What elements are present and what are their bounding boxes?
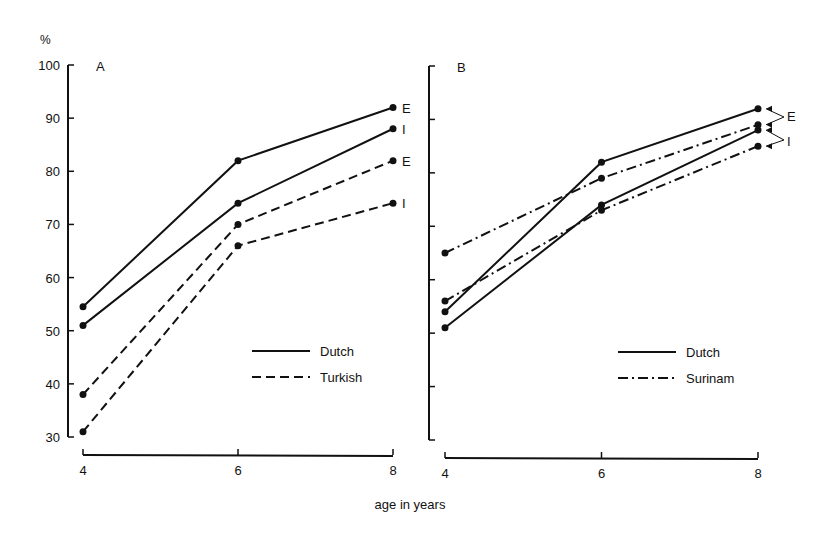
data-point xyxy=(390,125,397,132)
data-point xyxy=(442,250,449,257)
y-tick-label: 70 xyxy=(46,217,60,232)
data-point xyxy=(598,207,605,214)
annotation-i: I xyxy=(787,134,791,149)
y-tick-label: 90 xyxy=(46,111,60,126)
x-axis xyxy=(445,458,758,459)
y-tick-label: 40 xyxy=(46,377,60,392)
panel-title: B xyxy=(457,60,466,75)
chart-element xyxy=(766,143,772,149)
annotation-e: E xyxy=(402,154,411,169)
x-tick-label: 6 xyxy=(234,463,241,478)
data-point xyxy=(80,428,87,435)
data-point xyxy=(390,104,397,111)
data-point xyxy=(442,324,449,331)
x-tick-label: 6 xyxy=(598,466,605,481)
figure: 30405060708090100468ADutchTurkish%EIEI 4… xyxy=(0,0,834,543)
annotation-e: E xyxy=(787,109,796,124)
series-line-turkish-i xyxy=(83,203,393,432)
series-line-surinam-e xyxy=(445,125,758,253)
series-line-turkish-e xyxy=(83,161,393,395)
x-tick-label: 8 xyxy=(389,463,396,478)
legend-label: Turkish xyxy=(320,370,362,385)
data-point xyxy=(235,242,242,249)
data-point xyxy=(755,105,762,112)
annotation-i: I xyxy=(402,196,406,211)
data-point xyxy=(235,157,242,164)
legend-label: Dutch xyxy=(686,345,720,360)
data-point xyxy=(235,200,242,207)
panel-a: 30405060708090100468ADutchTurkish%EIEI xyxy=(38,33,411,478)
y-tick-label: 30 xyxy=(46,430,60,445)
chart-element xyxy=(766,106,772,112)
panel-title: A xyxy=(96,59,105,74)
data-point xyxy=(598,175,605,182)
data-point xyxy=(390,200,397,207)
panel-b: 468BDutchSurinamEI xyxy=(429,60,796,481)
x-axis xyxy=(83,455,393,456)
data-point xyxy=(390,157,397,164)
series-line-surinam-i xyxy=(445,146,758,301)
chart-element xyxy=(766,130,784,140)
y-unit-label: % xyxy=(40,33,51,47)
data-point xyxy=(80,391,87,398)
data-point xyxy=(755,121,762,128)
data-point xyxy=(442,298,449,305)
y-tick-label: 50 xyxy=(46,324,60,339)
x-tick-label: 4 xyxy=(79,463,86,478)
legend-label: Dutch xyxy=(320,344,354,359)
data-point xyxy=(235,221,242,228)
data-point xyxy=(598,159,605,166)
data-point xyxy=(80,303,87,310)
legend-label: Surinam xyxy=(686,371,734,386)
series-line-dutch-e xyxy=(83,108,393,307)
x-tick-label: 4 xyxy=(441,466,448,481)
y-tick-label: 60 xyxy=(46,271,60,286)
data-point xyxy=(755,143,762,150)
data-point xyxy=(442,308,449,315)
x-axis-label: age in years xyxy=(375,497,446,512)
x-tick-label: 8 xyxy=(754,466,761,481)
y-tick-label: 80 xyxy=(46,164,60,179)
data-point xyxy=(80,322,87,329)
annotation-i: I xyxy=(402,122,406,137)
y-tick-label: 100 xyxy=(38,58,60,73)
annotation-e: E xyxy=(402,101,411,116)
chart-element xyxy=(766,122,772,128)
